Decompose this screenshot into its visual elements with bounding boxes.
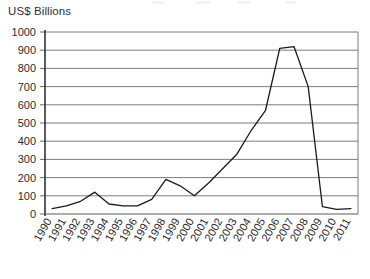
y-tick-label: 600 [18, 99, 36, 111]
scan-artifacts [152, 1, 296, 4]
data-series-line [52, 47, 351, 210]
y-tick-label: 400 [18, 135, 36, 147]
chart-container: US$ Billions 010020030040050060070080090… [0, 0, 370, 279]
y-tick-label: 500 [18, 117, 36, 129]
y-tick-label: 100 [18, 190, 36, 202]
line-chart-plot: 01002003004005006007008009001000 1990199… [0, 0, 370, 279]
x-tick-labels: 1990199119921993199419951996199719981999… [31, 216, 352, 243]
y-tick-label: 200 [18, 172, 36, 184]
y-tick-label: 1000 [12, 26, 36, 38]
y-tick-label: 900 [18, 44, 36, 56]
y-tick-label: 700 [18, 81, 36, 93]
y-tick-label: 300 [18, 153, 36, 165]
y-tick-label: 800 [18, 62, 36, 74]
y-tick-label: 0 [30, 208, 36, 220]
y-tick-labels: 01002003004005006007008009001000 [12, 26, 36, 220]
